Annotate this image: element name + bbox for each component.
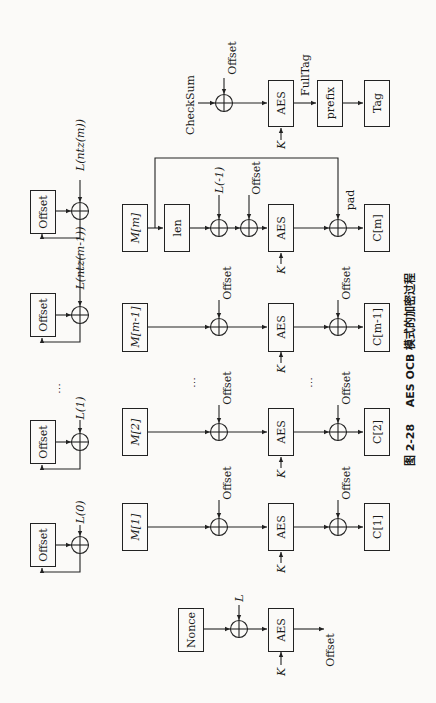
cm-label: C[m] (372, 214, 383, 241)
aes-label: AES (276, 420, 287, 444)
m1-label: M[1] (130, 514, 141, 541)
c1-label: C[1] (372, 515, 383, 539)
key-label: K (276, 470, 287, 478)
key-label: K (276, 668, 287, 676)
pad-label: pad (345, 190, 356, 211)
figure-title: AES OCB 模式的加密过程 (405, 273, 416, 407)
aes-label: AES (276, 515, 287, 539)
offset-label: Offset (38, 425, 49, 458)
aes-label: AES (276, 315, 287, 339)
key-label: K (276, 365, 287, 373)
offset-label: Offset (38, 298, 49, 331)
ellipsis: ⋯ (55, 383, 66, 394)
ellipsis: ⋯ (307, 377, 318, 388)
offset-label: Offset (38, 195, 49, 228)
key-label: K (276, 141, 287, 149)
len-label: len (172, 219, 183, 236)
l-minus-1-label: L(-1) (214, 167, 225, 194)
prefix-label: prefix (325, 87, 336, 119)
checksum-label: CheckSum (185, 75, 196, 135)
nonce-label: Nonce (186, 612, 197, 648)
c2-label: C[2] (372, 420, 383, 444)
fulltag-label: FullTag (300, 54, 311, 96)
l-ntz-m-label: L(ntz(m)) (75, 119, 86, 171)
aes-label: AES (276, 91, 287, 115)
offset-label: Offset (251, 161, 262, 194)
mm-label: M[m] (130, 213, 141, 243)
offset-label: Offset (227, 41, 238, 74)
tag-label: Tag (372, 93, 383, 113)
offset-output-label: Offset (325, 633, 336, 666)
aes-label: AES (276, 618, 287, 642)
mm-1-label: M[m-1] (130, 307, 141, 348)
aes-label: AES (276, 216, 287, 240)
offset-label: Offset (222, 371, 233, 404)
l-ntz-m-1-label: L(ntz(m-1)) (75, 227, 86, 290)
l0-label: L(0) (75, 501, 86, 524)
offset-label: Offset (341, 466, 352, 499)
m2-label: M[2] (130, 419, 141, 446)
ellipsis: ⋯ (190, 377, 201, 388)
offset-label: Offset (222, 466, 233, 499)
offset-label: Offset (38, 528, 49, 561)
figure-number: 图 2-28 (405, 424, 416, 466)
offset-label: Offset (341, 371, 352, 404)
key-label: K (276, 565, 287, 573)
l-label: L (234, 594, 245, 601)
l1-label: L(1) (75, 397, 86, 420)
key-label: K (276, 266, 287, 274)
offset-label: Offset (222, 266, 233, 299)
cm-1-label: C[m-1] (372, 308, 383, 346)
offset-label: Offset (341, 266, 352, 299)
